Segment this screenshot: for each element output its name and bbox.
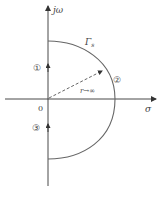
segment-2-label: ② [113, 75, 121, 85]
contour-arc [48, 41, 115, 159]
imaginary-axis-label: jω [51, 5, 64, 15]
nyquist-contour-diagram: jω σ 0 Γs r→∞ ① ② ③ [0, 0, 164, 197]
segment-3-label: ③ [32, 123, 40, 133]
segment-1-label: ① [33, 63, 41, 73]
real-axis-label: σ [145, 104, 152, 114]
origin-label: 0 [38, 104, 43, 113]
contour-label: Γs [84, 37, 94, 48]
contour-label-sub: s [91, 41, 94, 48]
radius-label: r→∞ [80, 87, 95, 95]
